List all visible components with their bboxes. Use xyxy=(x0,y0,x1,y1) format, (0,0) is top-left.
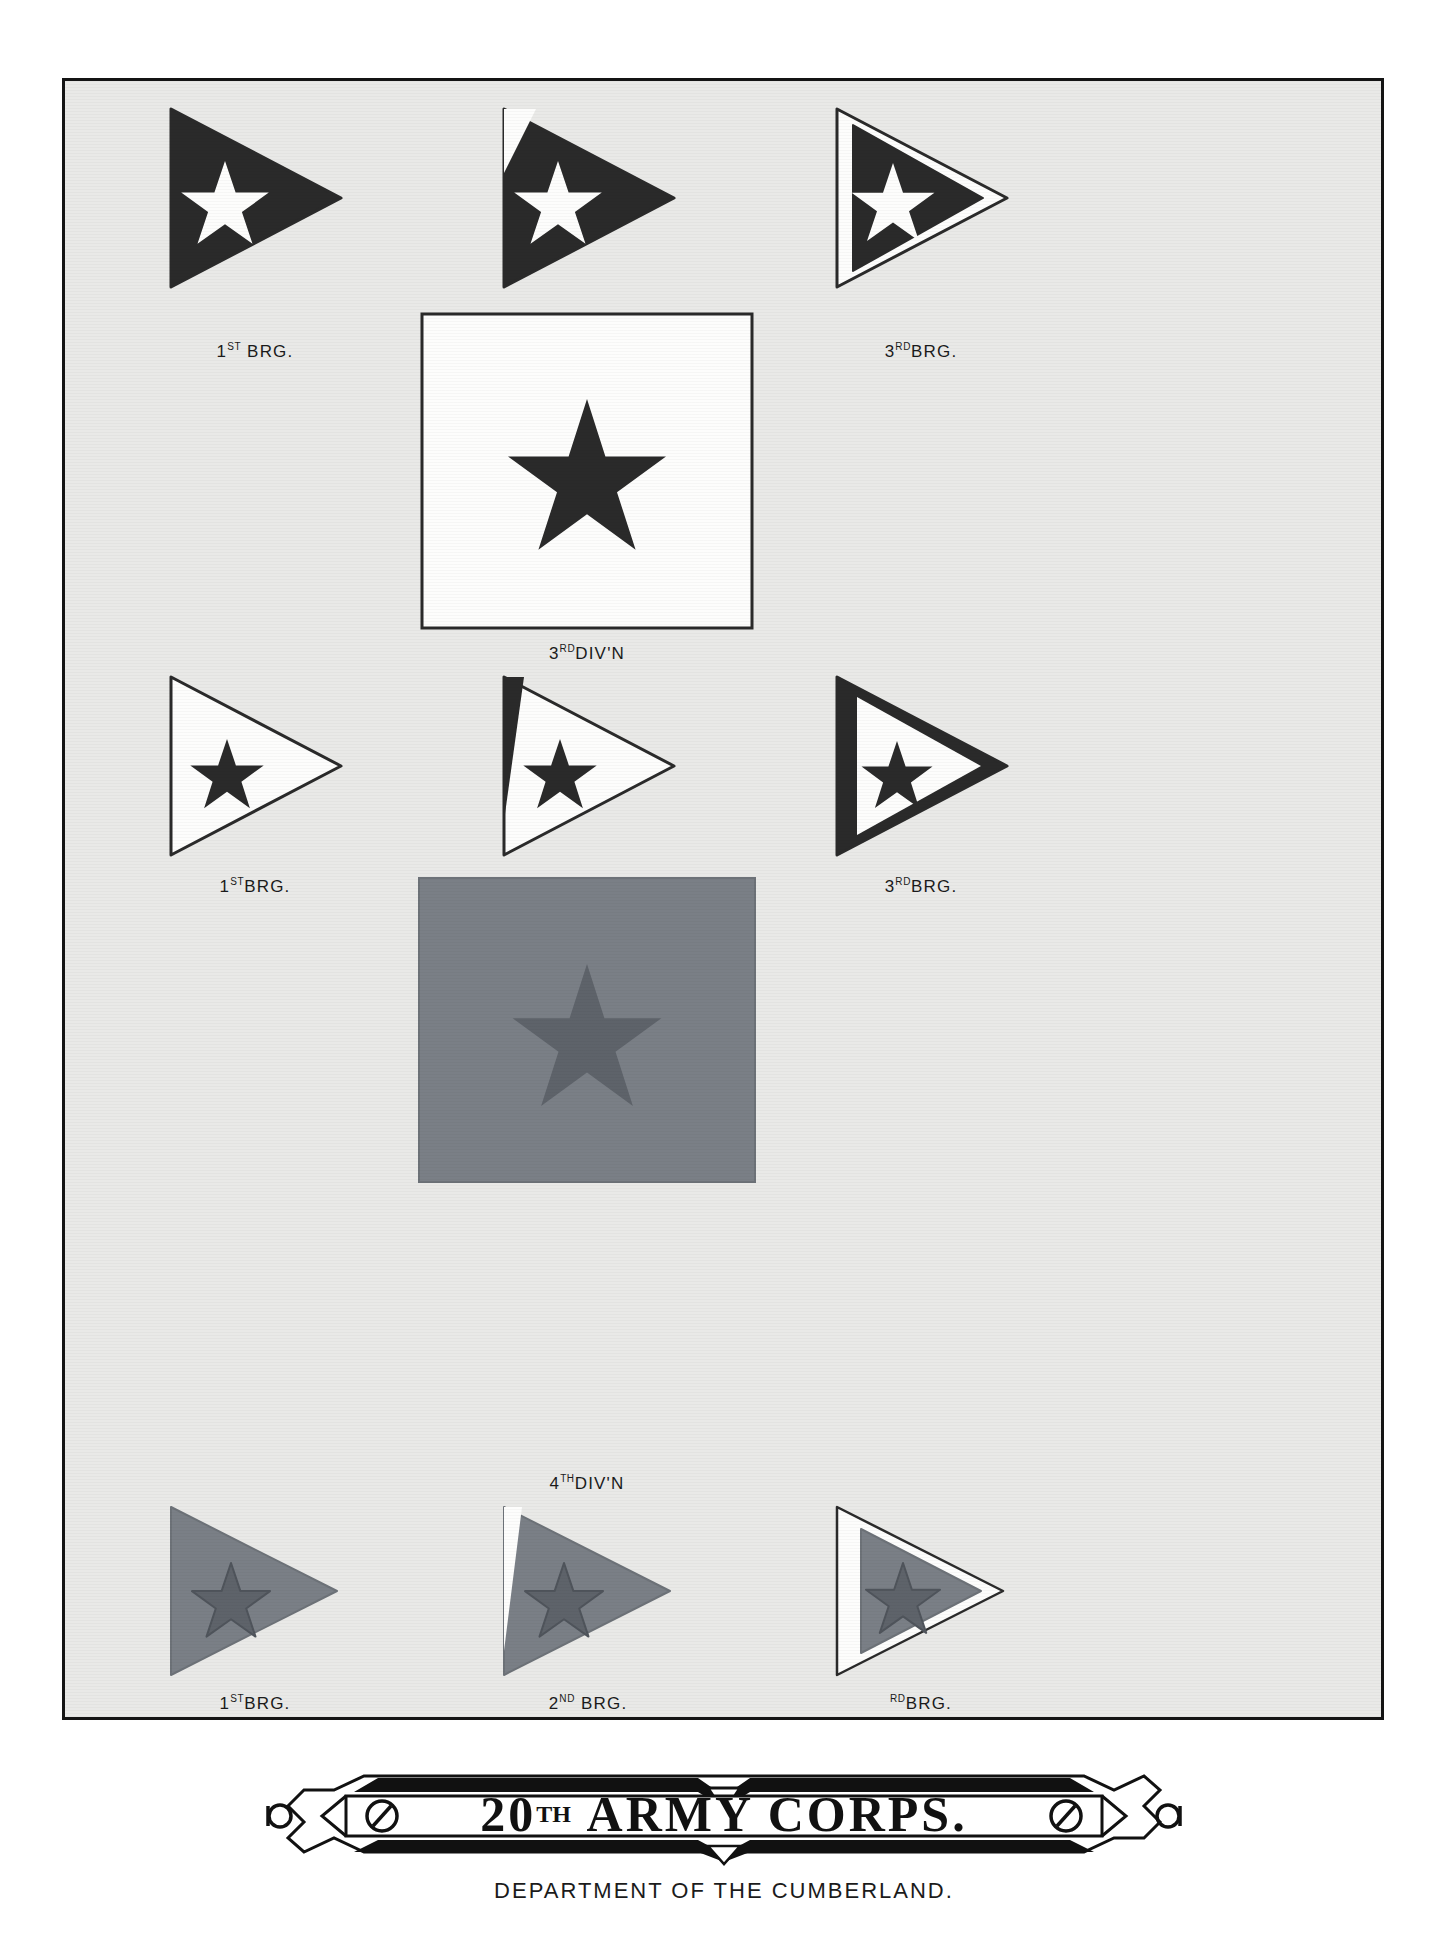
flag-div4-brigade-3 xyxy=(831,1501,1011,1681)
label-3rd-division: 3RDDIV'N xyxy=(477,643,697,664)
label-number: 2 xyxy=(549,1694,560,1713)
label-ordinal: ST xyxy=(227,341,241,352)
label-number: 4 xyxy=(549,1474,560,1493)
banner-subtitle: DEPARTMENT OF THE CUMBERLAND. xyxy=(0,1878,1448,1904)
banner-title: 20TH ARMY CORPS. xyxy=(268,1762,1180,1866)
label-div4-brigade-3: RDBRG. xyxy=(811,1693,1031,1714)
label-ordinal: ND xyxy=(559,1693,575,1704)
flag-div3-brigade-1 xyxy=(165,103,345,293)
label-rest: DIV'N xyxy=(575,644,625,663)
label-number: 3 xyxy=(885,877,896,896)
flag-div4-brigade-1 xyxy=(165,1501,345,1681)
label-white-brigade-3: 3RDBRG. xyxy=(811,876,1031,897)
pennant-solid-black xyxy=(165,103,345,293)
label-ordinal: ST xyxy=(230,1693,244,1704)
label-ordinal: TH xyxy=(560,1473,575,1484)
pennant-solid-white xyxy=(165,671,345,861)
label-div4-brigade-2: 2ND BRG. xyxy=(478,1693,698,1714)
label-rest: DIV'N xyxy=(575,1474,625,1493)
label-rest: BRG. xyxy=(244,1694,290,1713)
label-ordinal: ST xyxy=(230,876,244,887)
plate-border: 1ST BRG. 2ND BRG. 3RDBRG. xyxy=(62,78,1384,1720)
label-white-brigade-1: 1STBRG. xyxy=(145,876,365,897)
pennant-bordered-black xyxy=(831,103,1011,293)
label-4th-division: 4THDIV'N xyxy=(477,1473,697,1494)
flag-div4-brigade-2 xyxy=(498,1501,678,1681)
pennant-corner-notch-blue xyxy=(498,1501,678,1681)
label-ordinal: RD xyxy=(895,341,911,352)
label-number: 1 xyxy=(217,342,228,361)
pennant-bordered-white xyxy=(831,671,1011,861)
label-rest: BRG. xyxy=(911,342,957,361)
label-div4-brigade-1: 1STBRG. xyxy=(145,1693,365,1714)
label-number: 3 xyxy=(885,342,896,361)
division-square-white xyxy=(419,311,755,631)
flag-3rd-division xyxy=(419,311,755,631)
pennant-corner-notch-black xyxy=(498,103,678,293)
label-ordinal: RD xyxy=(890,1693,906,1704)
label-rest: BRG. xyxy=(906,1694,952,1713)
flag-div3-brigade-3 xyxy=(831,103,1011,293)
flag-white-brigade-1 xyxy=(165,671,345,861)
label-rest: BRG. xyxy=(244,877,290,896)
flag-div3-brigade-2 xyxy=(498,103,678,293)
label-number: 1 xyxy=(219,1694,230,1713)
label-rest: BRG. xyxy=(911,877,957,896)
label-div3-brigade-3: 3RDBRG. xyxy=(811,341,1031,362)
label-number: 3 xyxy=(549,644,560,663)
pennant-solid-blue xyxy=(165,1501,345,1681)
label-ordinal: RD xyxy=(895,876,911,887)
pennant-bordered-blue xyxy=(831,1501,1011,1681)
corps-banner: 20TH ARMY CORPS. xyxy=(268,1762,1180,1866)
pennant-field xyxy=(857,697,981,835)
pennant-corner-notch-white xyxy=(498,671,678,861)
flag-white-brigade-3 xyxy=(831,671,1011,861)
flag-white-brigade-2 xyxy=(498,671,678,861)
label-number: 1 xyxy=(219,877,230,896)
division-square-blue xyxy=(417,876,757,1184)
label-rest: BRG. xyxy=(247,342,293,361)
banner-title-rest: ARMY CORPS. xyxy=(587,1785,968,1843)
banner-number: 20 xyxy=(480,1785,536,1843)
banner-ordinal: TH xyxy=(536,1801,571,1828)
label-div3-brigade-1: 1ST BRG. xyxy=(145,341,365,362)
insignia-plate-sheet: 1ST BRG. 2ND BRG. 3RDBRG. xyxy=(0,0,1448,1960)
label-ordinal: RD xyxy=(560,643,576,654)
flag-4th-division xyxy=(417,876,757,1184)
label-rest: BRG. xyxy=(581,1694,627,1713)
